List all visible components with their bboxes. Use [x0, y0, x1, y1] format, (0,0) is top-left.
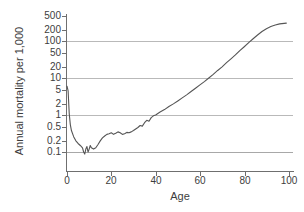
mortality-by-age-chart: Annual mortality per 1,000 500 200 100 5…: [0, 0, 304, 212]
mortality-curve-svg: [0, 0, 304, 212]
mortality-curve: [67, 23, 286, 154]
